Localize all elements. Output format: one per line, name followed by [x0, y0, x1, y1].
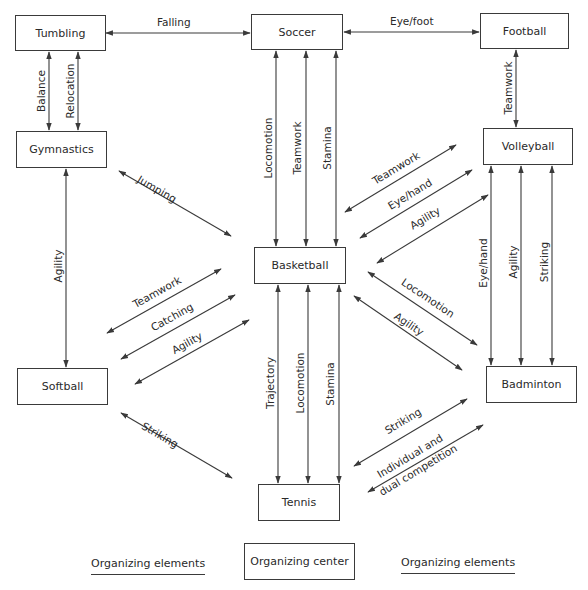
node-gymnastics-label: Gymnastics: [29, 143, 93, 156]
legend-organizing-elements-right: Organizing elements: [401, 556, 515, 574]
label-trajectory: Trajectory: [265, 357, 276, 409]
legend-organizing-center-label: Organizing center: [250, 555, 348, 568]
label-relocation: Relocation: [65, 64, 76, 119]
label-falling: Falling: [157, 17, 191, 28]
label-striking-vb-bd: Striking: [539, 242, 550, 282]
label-locomotion-tennis: Locomotion: [295, 352, 306, 413]
node-badminton-label: Badminton: [501, 378, 561, 391]
node-badminton: Badminton: [486, 366, 577, 403]
node-softball-label: Softball: [42, 380, 84, 393]
node-softball: Softball: [17, 368, 108, 405]
label-agility-vb-bd: Agility: [508, 246, 519, 279]
node-tumbling: Tumbling: [15, 15, 106, 51]
label-locomotion-soccer: Locomotion: [263, 117, 274, 178]
node-basketball: Basketball: [254, 247, 346, 284]
node-volleyball: Volleyball: [483, 128, 573, 165]
label-stamina-soccer: Stamina: [322, 126, 333, 169]
label-teamwork-football-volleyball: Teamwork: [503, 61, 514, 114]
node-tennis-label: Tennis: [282, 496, 316, 509]
skill-concept-map: Tumbling Soccer Football Gymnastics Voll…: [0, 0, 588, 590]
node-tumbling-label: Tumbling: [36, 27, 86, 40]
node-gymnastics: Gymnastics: [16, 131, 107, 168]
arrow-locomotion-badminton: [368, 272, 477, 345]
node-volleyball-label: Volleyball: [502, 140, 555, 153]
legend-organizing-elements-left: Organizing elements: [91, 557, 205, 575]
label-stamina-tennis: Stamina: [325, 362, 336, 405]
node-basketball-label: Basketball: [272, 259, 329, 272]
node-football: Football: [480, 13, 569, 49]
legend-organizing-center: Organizing center: [244, 543, 355, 580]
node-soccer: Soccer: [251, 14, 343, 50]
label-eye-foot: Eye/foot: [390, 16, 434, 27]
label-eye-hand-vb-bd: Eye/hand: [478, 238, 489, 287]
label-teamwork-soccer: Teamwork: [292, 121, 303, 174]
node-soccer-label: Soccer: [278, 26, 315, 39]
node-tennis: Tennis: [258, 484, 340, 521]
label-balance: Balance: [36, 70, 47, 112]
label-agility-gymnastics-softball: Agility: [53, 250, 64, 283]
node-football-label: Football: [503, 25, 547, 38]
